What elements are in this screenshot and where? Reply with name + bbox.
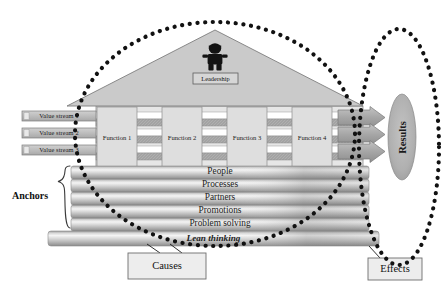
function-label-3: Function 3 <box>227 134 267 141</box>
anchor-log-label-partners: Partners <box>71 192 369 202</box>
anchor-log-label-people: People <box>71 166 369 176</box>
value-stream-label-3: Value stream 3 <box>22 146 96 154</box>
roof <box>67 30 363 106</box>
function-label-2: Function 2 <box>162 134 202 141</box>
causes-label: Causes <box>128 260 206 271</box>
function-label-4: Function 4 <box>292 134 332 141</box>
value-stream-label-1: Value stream 1 <box>22 112 96 120</box>
anchor-log-label-problem-solving: Problem solving <box>71 218 369 228</box>
foundation-label: Lean thinking <box>48 233 379 243</box>
leadership-label: Leadership <box>193 75 238 83</box>
anchor-log-label-processes: Processes <box>71 179 369 189</box>
results-label: Results <box>397 108 408 168</box>
effects-label: Effects <box>368 263 422 274</box>
value-stream-label-2: Value stream 2 <box>22 129 96 137</box>
output-arrows <box>338 107 385 163</box>
anchors-brace <box>58 166 70 228</box>
anchors-label: Anchors <box>12 190 48 201</box>
function-label-1: Function 1 <box>97 134 137 141</box>
diagram-canvas: Leadership Value stream 1 Value stream 2… <box>0 0 448 292</box>
anchor-log-label-promotions: Promotions <box>71 205 369 215</box>
